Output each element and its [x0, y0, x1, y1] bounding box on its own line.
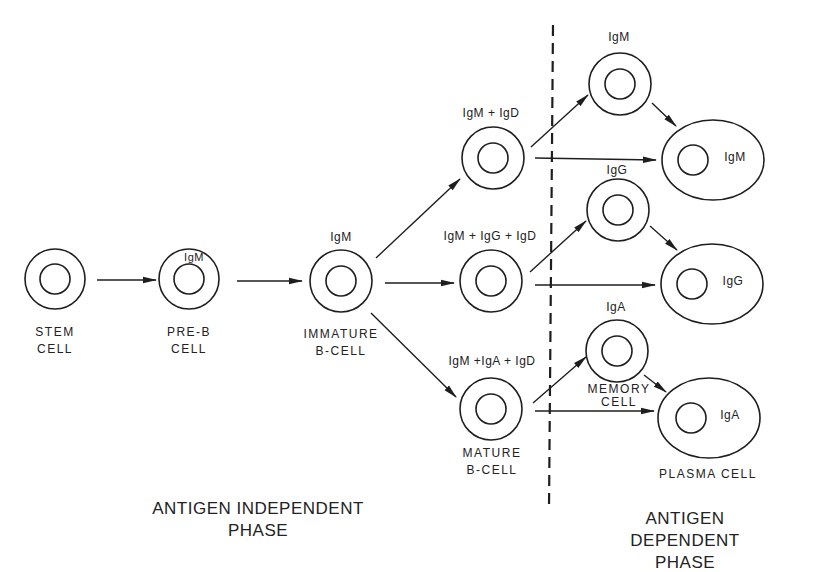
label-plasma-cell: PLASMA CELL [659, 466, 757, 483]
label-stem-cell: STEM CELL [35, 324, 74, 358]
ig-label-plasma-igm: IgM [724, 150, 746, 164]
ig-label-memory-igm: IgM [608, 30, 630, 44]
ig-label-mature-bottom: IgM +IgA + IgD [448, 354, 535, 368]
ig-label-immature: IgM [330, 230, 352, 244]
ig-label-plasma-iga: IgA [720, 408, 740, 422]
arrow-memory-igg-to-plasma-igg [650, 226, 677, 250]
arrow-mature-top-to-plasma-igm [535, 158, 656, 160]
cell-mature-bottom [460, 378, 522, 440]
label-memory-cell: MEMORY CELL [588, 383, 651, 409]
cell-memory-igm [589, 53, 651, 115]
arrow-immature-to-mature-top [376, 179, 460, 258]
ig-label-pre-b: IgM [184, 251, 204, 263]
ig-label-memory-iga: IgA [606, 300, 626, 314]
label-immature-b-cell: IMMATURE B-CELL [303, 326, 378, 360]
cell-plasma-igm [662, 120, 764, 200]
arrow-mature-bottom-to-memory-iga [533, 357, 586, 403]
cell-plasma-iga [658, 378, 760, 458]
ig-label-mature-top: IgM + IgD [463, 106, 520, 120]
cell-immature [310, 250, 372, 312]
phase-label-antigen-dependent: ANTIGEN DEPENDENT PHASE [614, 508, 756, 572]
cell-stem [25, 249, 85, 309]
arrow-mature-mid-to-memory-igg [530, 221, 586, 272]
cell-memory-igg [587, 179, 649, 241]
ig-label-plasma-igg: IgG [723, 274, 744, 288]
arrow-memory-igm-to-plasma-igm [652, 103, 676, 126]
label-mature-b-cell: MATURE B-CELL [463, 445, 522, 479]
ig-label-mature-mid: IgM + IgG + IgD [444, 229, 537, 243]
label-pre-b-cell: PRE-B CELL [167, 324, 211, 358]
cell-plasma-igg [661, 244, 763, 324]
cell-memory-iga [586, 320, 648, 382]
arrow-immature-to-mature-bottom [371, 313, 456, 397]
phase-label-antigen-independent: ANTIGEN INDEPENDENT PHASE [152, 498, 364, 542]
ig-label-memory-igg: IgG [607, 163, 628, 177]
phase-divider [549, 25, 553, 508]
arrow-mature-top-to-memory-igm [531, 95, 588, 147]
cell-mature-mid [460, 250, 522, 312]
cell-mature-top [462, 127, 524, 189]
